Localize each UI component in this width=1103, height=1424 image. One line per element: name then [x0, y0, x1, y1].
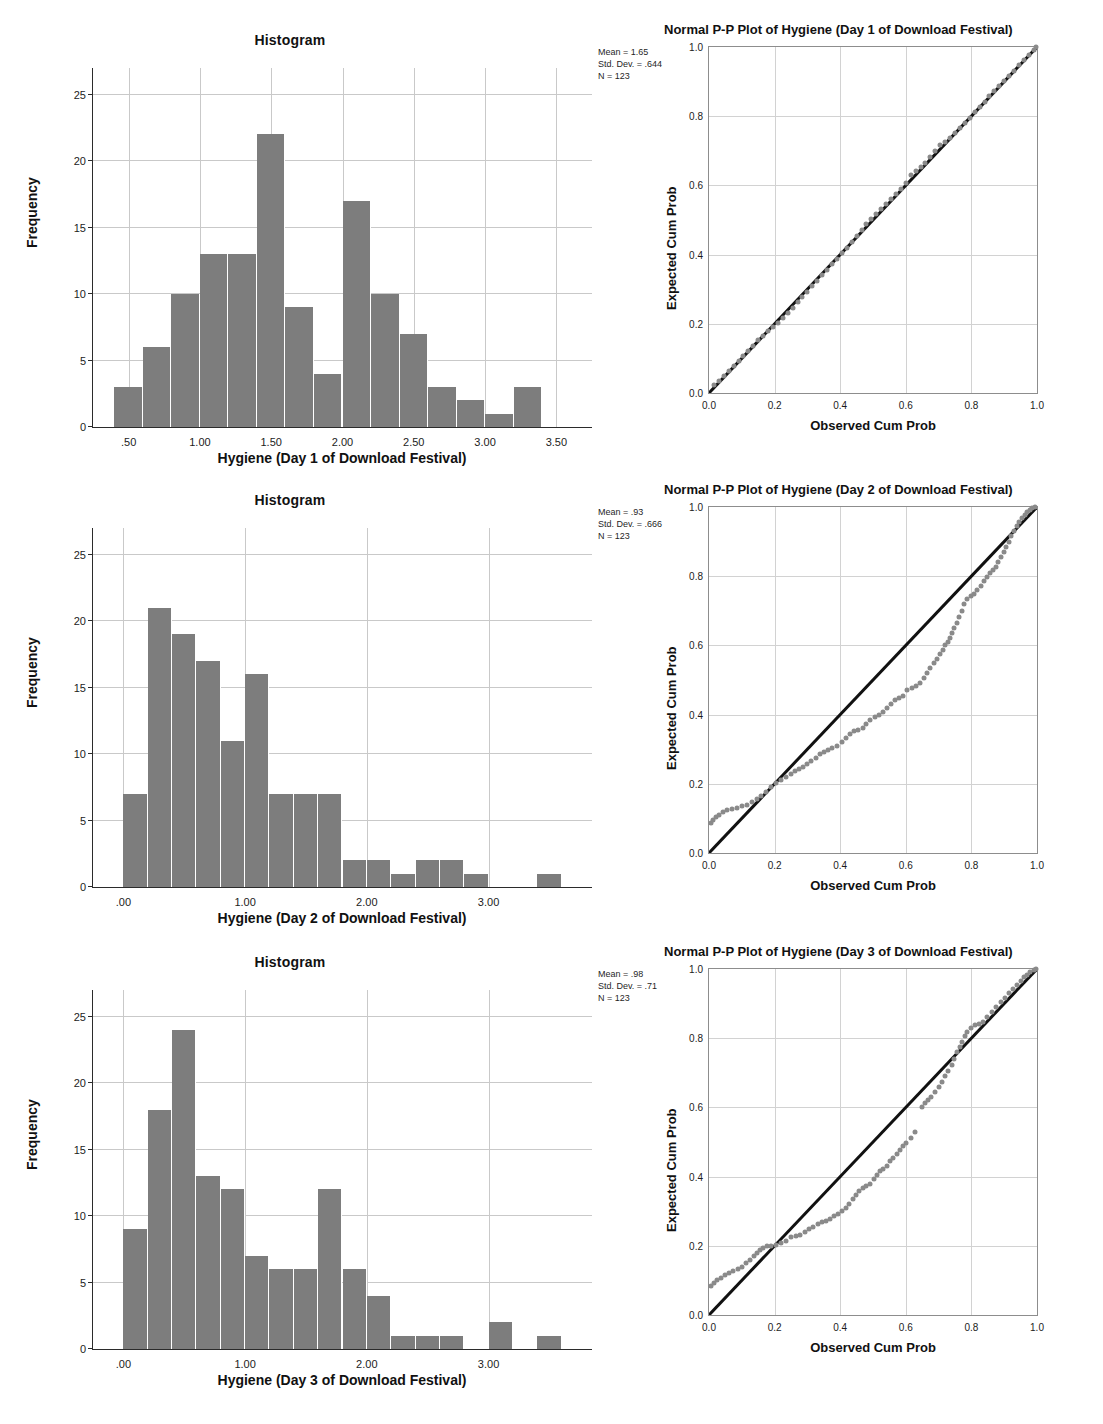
pp-plot-point	[850, 1197, 855, 1202]
histogram-x-tick-label: 3.50	[546, 436, 567, 448]
pp-plot-y-tick-label: 0.4	[689, 709, 703, 720]
pp-plot-point	[950, 631, 955, 636]
pp-plot-y-tick-label: 0.2	[689, 318, 703, 329]
pp-plot-point	[1006, 991, 1011, 996]
histogram-bar	[318, 1189, 342, 1349]
pp-plot-x-tick-label: 0.4	[833, 400, 847, 411]
pp-plot-point	[871, 1177, 876, 1182]
pp-plot-point	[933, 148, 938, 153]
pp-plot-x-axis-label: Observed Cum Prob	[708, 418, 1038, 433]
panel-day-3: Histogram Frequency 0510152025.001.002.0…	[0, 932, 1103, 1392]
pp-plot-point	[711, 383, 716, 388]
pp-plot-point	[884, 1163, 889, 1168]
pp-plot-y-tick-label: 0.6	[689, 640, 703, 651]
pp-plot-point	[869, 216, 874, 221]
histogram-x-axis-label: Hygiene (Day 1 of Download Festival)	[92, 450, 592, 466]
pp-plot-y-axis-label: Expected Cum Prob	[664, 1108, 679, 1232]
pp-plot-point	[879, 207, 884, 212]
histogram-x-tick-label: 2.00	[332, 436, 353, 448]
pp-plot-point	[938, 143, 943, 148]
histogram-x-axis-label: Hygiene (Day 3 of Download Festival)	[92, 1372, 592, 1388]
pp-plot-data-points	[709, 507, 1037, 853]
histogram-x-tick-label: 1.00	[189, 436, 210, 448]
pp-plot-y-tick-label: 0.8	[689, 1033, 703, 1044]
histogram-bar	[221, 741, 245, 887]
pp-plot-point	[1001, 549, 1006, 554]
histogram-bar	[391, 1336, 415, 1349]
histogram-bar	[245, 1256, 269, 1349]
pp-plot-point	[751, 343, 756, 348]
histogram-x-axis-label: Hygiene (Day 2 of Download Festival)	[92, 910, 592, 926]
histogram-bar	[371, 294, 400, 427]
pp-plot-point	[731, 364, 736, 369]
pp-plot-x-tick-label: 0.6	[899, 860, 913, 871]
pp-plot-y-tick-label: 1.0	[689, 964, 703, 975]
histogram-x-tick-label: 1.50	[260, 436, 281, 448]
histogram-y-tick-label: 0	[80, 1343, 86, 1355]
pp-plot-point	[957, 1044, 962, 1049]
histogram-bar	[269, 794, 293, 887]
pp-plot-point	[894, 1152, 899, 1157]
pp-plot-point	[839, 740, 844, 745]
pp-plot-point	[1034, 45, 1039, 50]
histogram-x-tick-label: .50	[121, 436, 136, 448]
pp-plot-x-tick-label: 1.0	[1030, 860, 1044, 871]
pp-plot-point	[994, 1005, 999, 1010]
pp-plot-point	[834, 743, 839, 748]
histogram-x-tick-label: 3.00	[478, 896, 499, 908]
histogram-y-tick-label: 25	[74, 549, 86, 561]
pp-plot-day-3: Normal P-P Plot of Hygiene (Day 3 of Dow…	[640, 932, 1103, 1392]
pp-plot-point	[775, 320, 780, 325]
histogram-bar	[196, 661, 220, 887]
pp-plot-point	[1004, 544, 1009, 549]
histogram-bar	[148, 608, 172, 887]
histogram-y-tick-label: 25	[74, 1011, 86, 1023]
histogram-x-tick-label: 3.00	[474, 436, 495, 448]
pp-plot-point	[987, 94, 992, 99]
pp-plot-point	[815, 278, 820, 283]
pp-plot-point	[917, 680, 922, 685]
pp-plot-y-tick-label: 0.8	[689, 111, 703, 122]
pp-plot-point	[933, 1089, 938, 1094]
pp-plot-point	[1033, 505, 1038, 510]
pp-plot-point	[849, 239, 854, 244]
histogram-y-tick-label: 15	[74, 682, 86, 694]
pp-plot-point	[864, 222, 869, 227]
pp-plot-y-tick-label: 0.8	[689, 571, 703, 582]
pp-plot-point	[761, 333, 766, 338]
pp-plot-data-points	[709, 47, 1037, 393]
histogram-bar	[416, 860, 440, 887]
pp-plot-point	[810, 284, 815, 289]
pp-plot-point	[962, 1034, 967, 1039]
pp-plot-point	[1009, 534, 1014, 539]
histogram-bar	[416, 1336, 440, 1349]
histogram-bar	[440, 1336, 464, 1349]
pp-plot-point	[938, 652, 943, 657]
pp-plot-x-tick-label: 0.2	[768, 860, 782, 871]
histogram-bar	[440, 860, 464, 887]
pp-plot-point	[948, 636, 953, 641]
histogram-y-tick-label: 20	[74, 155, 86, 167]
pp-plot-x-tick-label: 0.2	[768, 1322, 782, 1333]
pp-plot-x-tick-label: 1.0	[1030, 1322, 1044, 1333]
pp-plot-point	[825, 267, 830, 272]
pp-plot-y-tick-label: 0.0	[689, 388, 703, 399]
histogram-y-tick-label: 0	[80, 421, 86, 433]
pp-plot-point	[997, 84, 1002, 89]
panel-day-1: Histogram Frequency 0510152025.501.001.5…	[0, 10, 1103, 470]
histogram-bar	[343, 860, 367, 887]
pp-plot-point	[736, 359, 741, 364]
pp-plot-point	[936, 1085, 941, 1090]
histogram-bar	[400, 334, 429, 427]
pp-plot-point	[716, 378, 721, 383]
histogram-bar	[123, 794, 147, 887]
pp-plot-point	[764, 789, 769, 794]
pp-plot-y-tick-label: 0.4	[689, 249, 703, 260]
pp-plot-x-axis-label: Observed Cum Prob	[708, 878, 1038, 893]
histogram-bar	[196, 1176, 220, 1349]
pp-plot-point	[769, 785, 774, 790]
pp-plot-point	[982, 99, 987, 104]
histogram-bar	[285, 307, 314, 427]
pp-plot-point	[749, 799, 754, 804]
histogram-y-tick-label: 5	[80, 1277, 86, 1289]
